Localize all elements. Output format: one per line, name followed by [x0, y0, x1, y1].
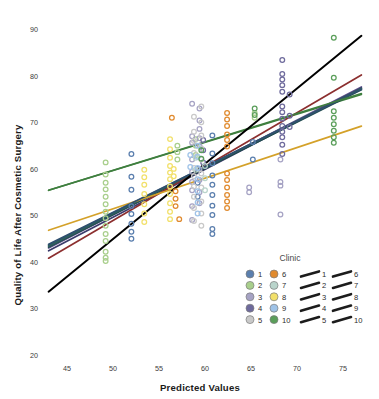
y-axis-tick-labels: 2030405060708090 [30, 25, 38, 360]
scatter-point [252, 106, 257, 111]
legend-marker-label-2: 2 [258, 281, 262, 290]
legend-line-label-3: 3 [322, 293, 326, 302]
legend-marker-clinic-3[interactable] [246, 293, 254, 301]
scatter-point [103, 187, 108, 192]
scatter-point [210, 227, 215, 232]
scatter-point [225, 185, 230, 190]
scatter-point [210, 133, 215, 138]
scatter-point [250, 157, 255, 162]
scatter-point [103, 160, 108, 165]
scatter-point [129, 187, 134, 192]
scatter-point [103, 249, 108, 254]
scatter-point [225, 124, 230, 129]
legend-marker-clinic-8[interactable] [270, 293, 278, 301]
scatter-point [210, 193, 215, 198]
scatter-point [173, 196, 178, 201]
scatter-point [171, 174, 176, 179]
legend-marker-label-6: 6 [282, 270, 286, 279]
legend-line-clinic-7[interactable] [333, 283, 351, 288]
scatter-point [129, 174, 134, 179]
scatter-point [129, 236, 134, 241]
scatter-point [247, 185, 252, 190]
scatter-point [129, 229, 134, 234]
scatter-point [175, 157, 180, 162]
legend-marker-clinic-5[interactable] [246, 316, 254, 324]
scatter-point [171, 167, 176, 172]
scatter-point [192, 114, 197, 119]
scatter-point [199, 223, 204, 228]
scatter-point [177, 217, 182, 222]
legend-marker-clinic-7[interactable] [270, 281, 278, 289]
legend-line-clinic-10[interactable] [333, 317, 351, 322]
legend-line-clinic-6[interactable] [333, 271, 351, 276]
scatter-point [280, 142, 285, 147]
y-tick-label: 60 [30, 165, 38, 174]
scatter-point [142, 175, 147, 180]
legend-line-clinic-8[interactable] [333, 294, 351, 299]
legend-line-label-5: 5 [322, 316, 326, 325]
scatter-point [225, 111, 230, 116]
scatter-point [175, 143, 180, 148]
x-tick-label: 50 [109, 364, 117, 373]
scatter-point [225, 199, 230, 204]
legend-line-clinic-5[interactable] [301, 317, 319, 322]
scatter-point [173, 204, 178, 209]
scatter-point [103, 194, 108, 199]
scatter-point [142, 182, 147, 187]
legend-line-clinic-4[interactable] [301, 306, 319, 311]
legend-line-clinic-9[interactable] [333, 306, 351, 311]
legend[interactable]: 1234567891012345678910 [246, 270, 362, 325]
legend-marker-clinic-2[interactable] [246, 281, 254, 289]
y-axis-title: Quality of Life After Cosmetic Surgery [12, 124, 23, 305]
scatter-point [225, 206, 230, 211]
y-tick-label: 30 [30, 304, 38, 313]
plot-canvas: 2030405060708090 45505560657075 Quality … [0, 0, 379, 399]
scatter-point [280, 83, 285, 88]
scatter-point [247, 190, 252, 195]
scatter-point [168, 147, 173, 152]
legend-marker-label-4: 4 [258, 304, 262, 313]
legend-line-clinic-3[interactable] [301, 294, 319, 299]
scatter-point [142, 192, 147, 197]
scatter-point [280, 72, 285, 77]
scatter-point [129, 212, 134, 217]
legend-marker-clinic-4[interactable] [246, 304, 254, 312]
legend-line-label-7: 7 [354, 281, 358, 290]
legend-marker-clinic-10[interactable] [270, 316, 278, 324]
y-tick-label: 20 [30, 351, 38, 360]
legend-marker-label-1: 1 [258, 270, 262, 279]
legend-marker-clinic-9[interactable] [270, 304, 278, 312]
x-axis-tick-labels: 45505560657075 [63, 364, 347, 373]
y-tick-label: 90 [30, 25, 38, 34]
legend-marker-label-7: 7 [282, 281, 286, 290]
scatter-point [190, 101, 195, 106]
scatter-point [210, 151, 215, 156]
legend-marker-clinic-1[interactable] [246, 270, 254, 278]
scatter-point [278, 212, 283, 217]
scatter-point [170, 115, 175, 120]
scatter-point [280, 89, 285, 94]
scatter-point [190, 134, 195, 139]
scatter-point [225, 138, 230, 143]
x-tick-label: 70 [293, 364, 301, 373]
y-tick-label: 80 [30, 72, 38, 81]
scatter-point [103, 239, 108, 244]
scatter-point [103, 180, 108, 185]
scatter-point [129, 152, 134, 157]
legend-marker-clinic-6[interactable] [270, 270, 278, 278]
y-tick-label: 50 [30, 211, 38, 220]
legend-line-clinic-1[interactable] [301, 271, 319, 276]
scatter-point [331, 115, 336, 120]
scatter-point [197, 127, 202, 132]
scatter-point [331, 128, 336, 133]
regression-line-9 [49, 89, 362, 244]
legend-line-clinic-2[interactable] [301, 283, 319, 288]
scatter-point [168, 137, 173, 142]
legend-line-label-1: 1 [322, 270, 326, 279]
x-tick-label: 75 [339, 364, 347, 373]
scatter-point [225, 193, 230, 198]
legend-marker-label-5: 5 [258, 316, 262, 325]
scatter-point [331, 109, 336, 114]
scatter-points-layer [103, 35, 336, 263]
y-tick-label: 70 [30, 118, 38, 127]
